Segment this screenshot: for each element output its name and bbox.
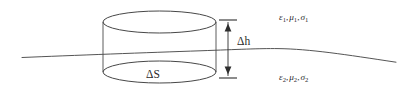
comma-4: , [297,72,299,82]
comma-1: , [286,12,288,22]
comma-3: , [286,72,288,82]
delta-h-label: Δh [237,35,250,47]
figure-canvas: Δh ΔS ε1,μ1,σ1 ε2,μ2,σ2 [0,0,406,94]
delta-s-label: ΔS [146,68,160,80]
sigma-2-subscript: 2 [305,76,308,83]
dimension-arrow-down [225,67,232,75]
comma-2: , [297,12,299,22]
medium-lower-properties: ε2,μ2,σ2 [279,72,308,83]
sigma-1-subscript: 1 [305,16,308,23]
media-interface-curve [22,49,396,63]
cylinder-top-ellipse [103,11,216,33]
dimension-arrow-up [225,24,232,32]
medium-upper-properties: ε1,μ1,σ1 [279,12,308,23]
pillbox-interface-diagram: Δh ΔS ε1,μ1,σ1 ε2,μ2,σ2 [0,0,406,94]
